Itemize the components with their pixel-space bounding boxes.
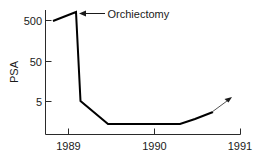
psa-line-chart: 500 50 5 1989 1990 1991 PSA Orchiectomy bbox=[0, 0, 261, 159]
y-tick-label-5: 5 bbox=[36, 96, 42, 108]
x-tick-label-1991: 1991 bbox=[228, 140, 252, 152]
trend-arrow-line bbox=[212, 100, 229, 113]
x-tick-label-1990: 1990 bbox=[142, 140, 166, 152]
x-tick-label-1989: 1989 bbox=[56, 140, 80, 152]
y-tick-label-50: 50 bbox=[30, 56, 42, 68]
psa-data-line bbox=[53, 12, 213, 124]
chart-canvas: 500 50 5 1989 1990 1991 PSA Orchiectomy bbox=[0, 0, 261, 159]
y-axis-title: PSA bbox=[8, 60, 20, 83]
annotation-arrow-head-icon bbox=[79, 11, 86, 17]
annotation-label-orchiectomy: Orchiectomy bbox=[108, 8, 170, 20]
y-tick-label-500: 500 bbox=[24, 15, 42, 27]
